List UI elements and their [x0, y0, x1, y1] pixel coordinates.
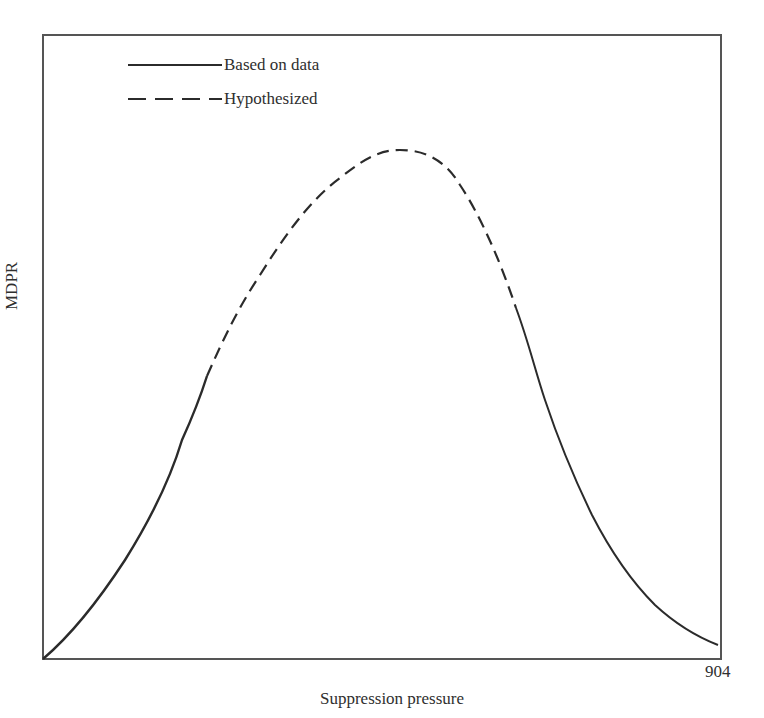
curve-dashed-hypothesized [207, 150, 516, 376]
curve-solid-right [516, 308, 718, 645]
page-number: 904 [705, 662, 731, 682]
plot-frame [43, 35, 721, 659]
legend-label-hypothesized: Hypothesized [224, 89, 317, 109]
chart-canvas [0, 0, 764, 718]
curve-solid-left [43, 376, 207, 659]
y-axis-label: MDPR [2, 250, 22, 310]
legend-label-based-on-data: Based on data [224, 55, 319, 75]
x-axis-label: Suppression pressure [0, 689, 764, 709]
